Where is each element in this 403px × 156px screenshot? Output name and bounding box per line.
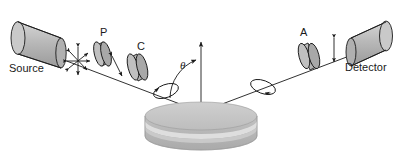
compensator-disk [125,53,150,82]
ellipsometry-diagram: Source P C θ A Detector [0,0,403,156]
detector-label: Detector [345,62,387,73]
diagram-canvas [0,0,403,156]
sample-stage [145,102,257,150]
compensator-label: C [137,41,145,52]
polarizer-label: P [100,27,107,38]
linear-polarization-arrow [112,56,122,76]
polarizer-disk [92,41,114,67]
analyzer-disk [296,42,322,70]
detector [346,21,393,66]
incidence-angle-label: θ [180,60,185,71]
analyzer-label: A [300,27,307,38]
source-label: Source [9,63,44,74]
unpolarized-light-symbol [67,47,90,75]
elliptical-polarization-reflected [249,76,278,97]
